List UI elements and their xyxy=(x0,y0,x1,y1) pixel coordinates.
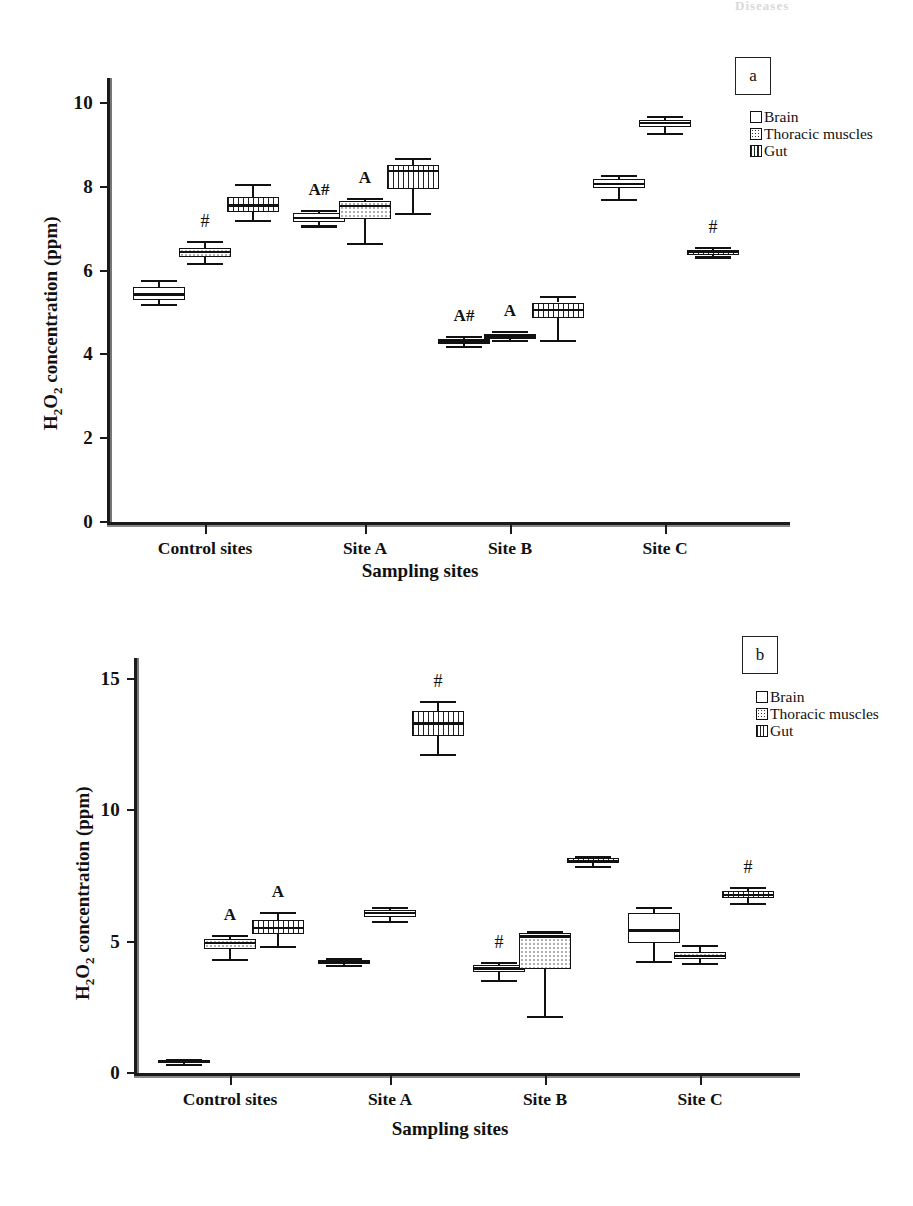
annotation-label: # xyxy=(744,857,753,878)
legend-item-gut: Gut xyxy=(756,722,879,739)
median-line xyxy=(293,217,345,219)
whisker-cap-lower xyxy=(395,213,430,215)
y-axis-tick xyxy=(100,270,108,272)
median-line xyxy=(252,927,304,929)
annotation-label: # xyxy=(495,932,504,953)
chart-legend: BrainThoracic musclesGut xyxy=(756,688,879,739)
x-axis-tick-label: Control sites xyxy=(183,1089,277,1110)
median-line xyxy=(687,251,739,253)
legend-item-thoracic: Thoracic muscles xyxy=(750,125,873,142)
x-axis xyxy=(107,522,790,525)
median-line xyxy=(179,251,231,253)
whisker-cap-upper xyxy=(347,198,382,200)
median-line xyxy=(674,955,726,957)
legend-label-thoracic: Thoracic muscles xyxy=(764,125,873,142)
whisker-cap-lower xyxy=(347,243,382,245)
y-axis-tick-label: 0 xyxy=(76,1062,120,1084)
legend-swatch-thoracic-icon xyxy=(750,128,762,140)
x-axis-tick xyxy=(390,1076,392,1085)
box xyxy=(628,913,680,943)
median-line xyxy=(318,961,370,963)
whisker-cap-lower xyxy=(601,199,636,201)
whisker-cap-upper xyxy=(212,935,247,937)
median-line xyxy=(722,894,774,896)
box xyxy=(519,933,571,969)
legend-swatch-thoracic-icon xyxy=(756,708,768,720)
y-axis xyxy=(107,78,110,525)
x-axis-tick xyxy=(545,1076,547,1085)
whisker-lower xyxy=(437,736,439,754)
whisker-lower xyxy=(229,949,231,959)
x-axis-tick-label: Site A xyxy=(343,538,387,559)
legend-label-brain: Brain xyxy=(764,108,798,125)
legend-label-gut: Gut xyxy=(764,142,787,159)
x-axis-tick-label: Site C xyxy=(642,538,687,559)
whisker-cap-lower xyxy=(235,220,270,222)
whisker-cap-lower xyxy=(682,963,717,965)
y-axis-tick-label: 8 xyxy=(49,176,93,198)
x-axis-tick-label: Site C xyxy=(677,1089,722,1110)
median-line xyxy=(484,335,536,337)
median-line xyxy=(438,340,490,342)
x-axis-title: Sampling sites xyxy=(392,1118,509,1140)
x-axis-tick-label: Site B xyxy=(488,538,532,559)
whisker-cap-lower xyxy=(187,263,222,265)
y-axis xyxy=(134,658,137,1076)
whisker-cap-lower xyxy=(420,754,455,756)
whisker-cap-lower xyxy=(481,980,516,982)
median-line xyxy=(628,929,680,931)
annotation-label: # xyxy=(709,217,718,238)
legend-label-brain: Brain xyxy=(770,688,804,705)
x-axis-tick xyxy=(665,525,667,534)
y-axis-tick-label: 10 xyxy=(49,92,93,114)
whisker-cap-upper xyxy=(301,210,336,212)
median-line xyxy=(639,122,691,124)
whisker-cap-upper xyxy=(395,158,430,160)
y-axis-tick xyxy=(100,102,108,104)
whisker-cap-lower xyxy=(575,866,610,868)
legend-label-gut: Gut xyxy=(770,722,793,739)
median-line xyxy=(519,935,571,937)
median-line xyxy=(473,967,525,969)
y-axis-title: H2O2 concentration (ppm) xyxy=(72,786,98,1000)
whisker-lower xyxy=(412,189,414,213)
y-axis-tick xyxy=(100,521,108,523)
annotation-label: A xyxy=(504,301,516,321)
y-axis-tick xyxy=(127,1072,135,1074)
whisker-cap-upper xyxy=(260,912,295,914)
median-line xyxy=(339,205,391,207)
whisker-cap-lower xyxy=(166,1064,201,1066)
legend-item-brain: Brain xyxy=(756,688,879,705)
x-axis-tick xyxy=(205,525,207,534)
whisker-cap-lower xyxy=(527,1016,562,1018)
annotation-label: A xyxy=(359,168,371,188)
box xyxy=(387,165,439,188)
annotation-label: A xyxy=(272,882,284,902)
panel-a xyxy=(0,0,913,606)
annotation-label: A# xyxy=(309,180,330,200)
whisker-cap-upper xyxy=(187,241,222,243)
y-axis-tick xyxy=(127,678,135,680)
whisker-cap-lower xyxy=(695,256,730,258)
whisker-cap-upper xyxy=(540,296,575,298)
y-axis-tick-label: 15 xyxy=(76,668,120,690)
whisker-cap-lower xyxy=(260,946,295,948)
whisker-cap-lower xyxy=(636,961,671,963)
y-axis-tick xyxy=(127,809,135,811)
whisker-cap-upper xyxy=(647,116,682,118)
median-line xyxy=(412,722,464,724)
whisker-cap-lower xyxy=(492,340,527,342)
whisker-cap-lower xyxy=(301,225,336,227)
y-axis-tick xyxy=(100,353,108,355)
whisker-cap-lower xyxy=(540,340,575,342)
annotation-label: A xyxy=(224,905,236,925)
legend-swatch-brain-icon xyxy=(756,691,768,703)
x-axis-tick-label: Control sites xyxy=(158,538,252,559)
legend-swatch-brain-icon xyxy=(750,111,762,123)
y-axis-tick-label: 0 xyxy=(49,511,93,533)
whisker-lower xyxy=(618,188,620,198)
legend-swatch-gut-icon xyxy=(750,145,762,157)
whisker-cap-lower xyxy=(372,921,407,923)
median-line xyxy=(593,183,645,185)
whisker-lower xyxy=(252,212,254,220)
